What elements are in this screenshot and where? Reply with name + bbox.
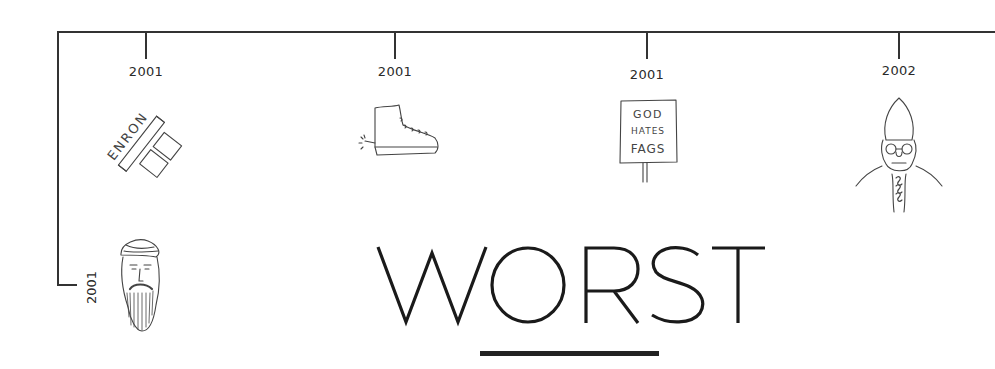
title-letter-w — [378, 247, 486, 322]
timeline-tick-4 — [898, 31, 900, 59]
event-year-label: 2002 — [882, 63, 916, 78]
enron-text: ENRON — [104, 109, 151, 163]
event-year-label: 2001 — [129, 64, 163, 79]
title-letter-t — [712, 248, 765, 323]
branch-event-year-label: 2001 — [84, 271, 99, 304]
page-title: WORST — [0, 21, 1, 22]
event-year-label: 2001 — [378, 64, 412, 79]
shoe-bomb-icon — [355, 103, 450, 158]
timeline-main-line — [57, 31, 995, 33]
bearded-man-icon — [116, 237, 166, 335]
protest-sign-icon: GOD HATES FAGS — [618, 98, 680, 184]
timeline-tick-1 — [145, 31, 147, 59]
sign-line-3: FAGS — [631, 142, 666, 156]
sign-line-2: HATES — [631, 126, 665, 136]
timeline-tick-2 — [394, 31, 396, 59]
timeline-tick-3 — [646, 31, 648, 59]
title-letter-r — [586, 248, 638, 323]
timeline-branch-stub — [57, 284, 77, 286]
title-underline — [480, 351, 659, 356]
bishop-icon — [852, 94, 947, 216]
title-letter-s — [652, 248, 703, 322]
timeline-left-branch-line — [57, 31, 59, 285]
enron-logo-icon: ENRON — [104, 100, 189, 192]
title-letter-o — [492, 248, 564, 322]
worst-title-graphic — [376, 245, 768, 325]
event-year-label: 2001 — [630, 67, 664, 82]
sign-line-1: GOD — [633, 108, 663, 121]
